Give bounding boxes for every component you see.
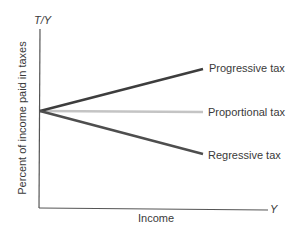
y-axis-label: Percent of income paid in taxes [16,41,28,195]
proportional-tax-line [40,111,203,112]
x-axis [39,208,268,210]
y-axis [39,29,40,208]
progressive-tax-line [40,69,203,111]
tax-diagram: T/Y Y Income Percent of income paid in t… [0,0,299,231]
regressive-tax-label: Regressive tax [208,149,281,161]
progressive-tax-label: Progressive tax [209,62,285,74]
y-axis-symbol: T/Y [34,14,52,26]
regressive-tax-line [40,111,203,154]
proportional-tax-label: Proportional tax [208,106,286,118]
x-axis-label: Income [138,212,174,224]
x-axis-symbol: Y [270,203,278,215]
